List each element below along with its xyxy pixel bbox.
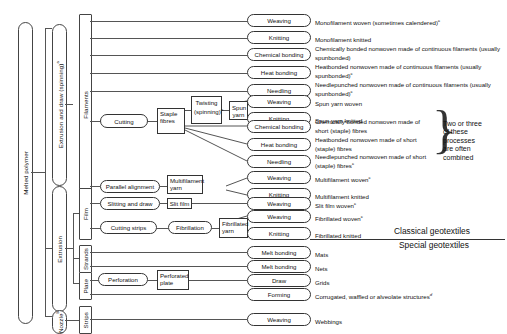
connector-extrusiondraw-out xyxy=(65,104,73,105)
node-slit-film[interactable]: Slit film xyxy=(167,198,192,209)
node-fibrillated-yarn[interactable]: Fibrillated yarn xyxy=(219,218,248,238)
process-pill[interactable]: Knitting xyxy=(247,227,311,240)
product-text: Webbings xyxy=(315,316,505,325)
product-text: Monofilament woven (sometimes calendered… xyxy=(315,17,505,26)
stage-extrusion-and-draw: Extrusion and draw (spinning)a xyxy=(52,24,67,186)
node-cutting-strips-label: Cutting strips xyxy=(111,224,147,231)
product-text: Multifilament knitted xyxy=(315,191,505,200)
stage-melted-polymer: Melted polymer xyxy=(18,22,33,324)
node-parallel-alignment-label: Parallel alignment xyxy=(106,183,154,190)
process-label: Melt bonding xyxy=(262,249,297,256)
product-text: Needlepunched nonwoven made of short (st… xyxy=(315,153,433,170)
line-filaments-row2 xyxy=(90,38,247,39)
connector-polymer-to-extrusiondraw xyxy=(45,28,52,29)
node-multifilament-yarn[interactable]: Multifilament yarn xyxy=(167,175,203,194)
process-pill[interactable]: Weaving xyxy=(247,171,311,184)
line-parallel-to-multifil xyxy=(160,186,167,187)
process-pill[interactable]: Weaving xyxy=(247,95,311,108)
process-pill[interactable]: Melt bonding xyxy=(247,260,311,273)
line-cuttingstrips-to-fibrillation xyxy=(157,228,168,229)
node-cutting[interactable]: Cutting xyxy=(100,114,148,128)
node-perforated-plate[interactable]: Perforated plate xyxy=(157,270,189,290)
process-label: Weaving xyxy=(267,213,291,220)
node-fibrillated-yarn-label: Fibrillated yarn xyxy=(222,220,248,234)
connector-extrusion-out xyxy=(65,248,73,249)
stage-strands-label: Strands xyxy=(82,248,89,270)
line-filaments-row4 xyxy=(90,73,247,74)
stage-plate: Plate xyxy=(79,272,92,300)
stage-filaments-label: Filaments xyxy=(82,91,89,119)
node-twisting-label: Twisting (spinning)a xyxy=(194,99,223,115)
process-pill[interactable]: Needling xyxy=(247,155,311,168)
process-label: Knitting xyxy=(269,230,289,237)
process-label: Needling xyxy=(267,158,291,165)
line-filaments-row1 xyxy=(90,21,247,22)
process-pill[interactable]: Heat bonding xyxy=(247,138,311,151)
process-label: Weaving xyxy=(267,316,291,323)
node-spun-yarn-label: Spun yarn xyxy=(232,104,246,118)
node-perforation-label: Perforation xyxy=(108,276,138,283)
process-pill[interactable]: Knitting xyxy=(247,31,311,44)
process-pill[interactable]: Heat bonding xyxy=(247,66,311,79)
connector-polymer-trunk xyxy=(31,172,45,173)
process-label: Chemical bonding xyxy=(255,51,304,58)
line-cutting-to-staple xyxy=(148,121,157,122)
product-text: Nets xyxy=(315,263,505,272)
process-label: Weaving xyxy=(267,200,291,207)
stage-nozzle-label: Nozzleb xyxy=(55,311,64,333)
line-filaments-row5 xyxy=(90,91,247,92)
connector-polymer-vert xyxy=(45,28,46,316)
process-pill[interactable]: Chemical bonding xyxy=(247,120,311,133)
stage-extrusion-label: Extrusion xyxy=(56,236,63,263)
process-label: Forming xyxy=(268,291,290,298)
process-pill[interactable]: Weaving xyxy=(247,197,311,210)
node-multifilament-yarn-label: Multifilament yarn xyxy=(170,177,204,191)
process-pill[interactable]: Draw xyxy=(247,274,311,287)
line-filaments-to-cutting xyxy=(90,121,100,122)
node-cutting-strips[interactable]: Cutting strips xyxy=(100,221,157,234)
node-twisting[interactable]: Twisting (spinning)a xyxy=(191,96,222,124)
node-slitting-and-draw[interactable]: Slitting and draw xyxy=(100,197,160,210)
process-label: Weaving xyxy=(267,174,291,181)
special-geotextiles-label: Special geotextiles xyxy=(399,240,469,250)
process-pill[interactable]: Melt bonding xyxy=(247,246,311,259)
product-text: Mats xyxy=(315,249,505,258)
product-text: Chemically bonded nonwoven made of conti… xyxy=(315,45,507,62)
node-spun-yarn[interactable]: Spun yarn xyxy=(229,101,248,120)
process-pill[interactable]: Forming xyxy=(247,288,311,301)
stage-extrusion-and-draw-label: Extrusion and draw (spinning)a xyxy=(55,61,64,148)
connector-extrusion-spine xyxy=(73,213,74,283)
product-text: Spun yarn woven xyxy=(315,98,505,107)
brace-note: Two or three of these processes are ofte… xyxy=(443,120,485,162)
stage-strips-label: Strips xyxy=(82,312,89,328)
stage-film: Film xyxy=(79,188,92,240)
stage-plate-label: Plate xyxy=(82,279,89,294)
process-pill[interactable]: Chemical bonding xyxy=(247,48,311,61)
stage-strips: Strips xyxy=(79,306,92,334)
node-staple-fibres[interactable]: Staple fibres xyxy=(157,108,185,134)
product-text: Needlepunched nonwoven made of continuou… xyxy=(315,81,507,98)
product-text: Chemically bonded nonwoven made of short… xyxy=(315,118,433,135)
process-label: Chemical bonding xyxy=(255,123,304,130)
node-parallel-alignment[interactable]: Parallel alignment xyxy=(100,180,160,193)
line-plate-row19 xyxy=(90,294,247,295)
process-pill[interactable]: Weaving xyxy=(247,313,311,326)
connector-polymer-to-nozzle xyxy=(45,316,52,317)
process-label: Heat bonding xyxy=(261,141,297,148)
process-pill[interactable]: Weaving xyxy=(247,14,311,27)
process-label: Weaving xyxy=(267,98,291,105)
classical-geotextiles-label: Classical geotextiles xyxy=(394,226,470,236)
product-text: Slit film wovenc xyxy=(315,200,505,209)
stage-strands: Strands xyxy=(79,245,92,273)
line-perforation-to-perfplate xyxy=(148,280,157,281)
product-text: Multifilament wovenc xyxy=(315,174,505,183)
node-perforation[interactable]: Perforation xyxy=(98,273,148,286)
process-pill[interactable]: Weaving xyxy=(247,210,311,223)
product-text: Grids xyxy=(315,277,505,286)
stage-filaments: Filaments xyxy=(79,14,92,196)
line-strands-row16 xyxy=(90,252,247,253)
line-strands-row17 xyxy=(90,266,247,267)
line-strips-row20 xyxy=(90,319,247,320)
node-fibrillation[interactable]: Fibrillation xyxy=(168,221,212,234)
line-perfplate-to-row18 xyxy=(189,280,247,281)
